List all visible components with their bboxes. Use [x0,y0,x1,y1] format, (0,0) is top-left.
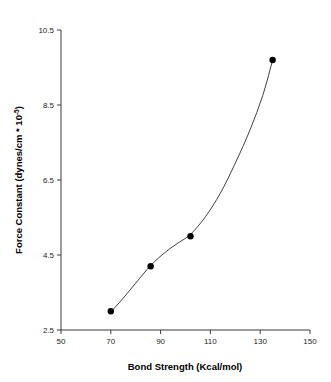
y-tick-label: 8.5 [43,101,55,110]
y-tick-label: 10.5 [38,26,54,35]
y-tick-label: 6.5 [43,176,55,185]
y-axis-title-suffix: ) [13,106,24,109]
x-tick-label: 50 [57,337,66,346]
x-tick-label: 90 [156,337,165,346]
y-axis-ticks: 2.54.56.58.510.5 [38,26,61,335]
data-point-marker [187,233,193,239]
fitted-curve [111,60,273,312]
x-axis-ticks: 507090110130150 [57,330,318,346]
y-axis-title-main: Force Constant (dynes/cm * 10 [13,115,24,254]
x-tick-label: 110 [204,337,217,346]
y-axis-title-group: Force Constant (dynes/cm * 10-5) [13,106,25,254]
y-axis-title: Force Constant (dynes/cm * 10-5) [13,106,25,254]
scatter-plot: 2.54.56.58.510.5 507090110130150 Bond St… [0,0,331,382]
x-tick-label: 150 [303,337,317,346]
x-tick-label: 130 [254,337,268,346]
chart-container: 2.54.56.58.510.5 507090110130150 Bond St… [0,0,331,382]
y-tick-label: 4.5 [43,251,55,260]
data-point-marker [269,57,275,63]
y-tick-label: 2.5 [43,326,55,335]
data-points-group [108,57,276,315]
data-point-marker [147,263,153,269]
data-point-marker [108,308,114,314]
axes-group [61,30,310,330]
x-tick-label: 70 [106,337,115,346]
x-axis-title: Bond Strength (Kcal/mol) [128,361,243,372]
